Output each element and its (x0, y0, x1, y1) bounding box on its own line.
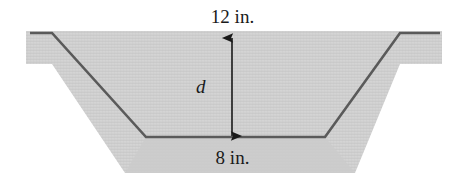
bottom-width-label: 8 in. (0, 148, 465, 167)
depth-label: d (196, 77, 206, 96)
trough-cross-section-figure: 12 in. d 8 in. (0, 0, 465, 176)
top-width-label: 12 in. (0, 7, 465, 26)
